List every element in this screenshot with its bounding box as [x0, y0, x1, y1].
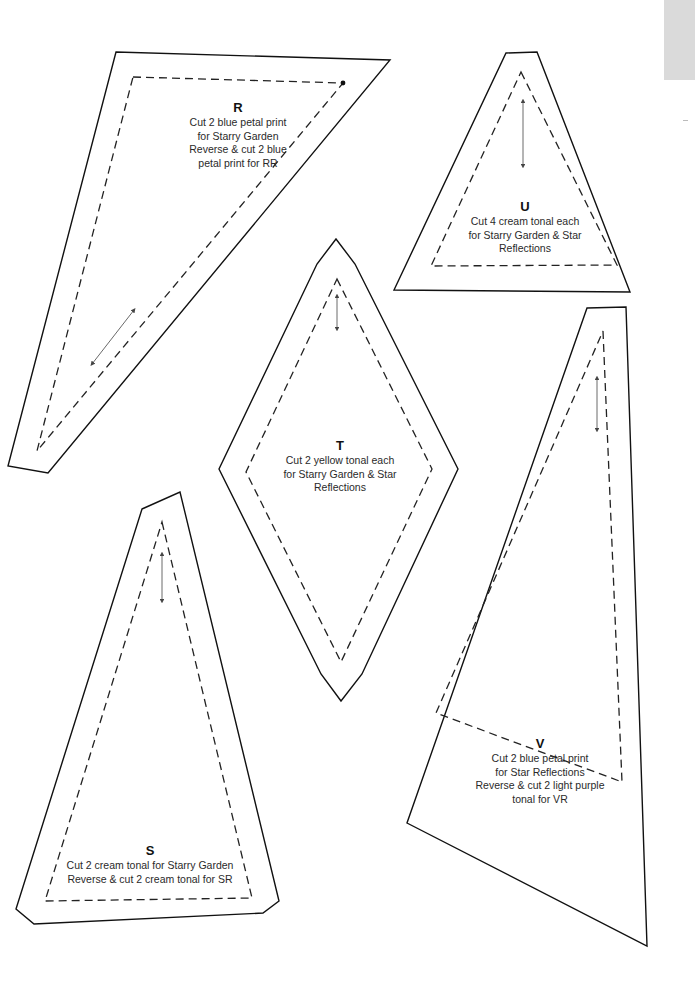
piece-letter: S [50, 843, 250, 859]
piece-instruction-line: for Star Reflections [470, 766, 610, 780]
piece-v-label: V Cut 2 blue petal print for Star Reflec… [470, 736, 610, 806]
piece-instruction-line: Reflections [270, 481, 410, 495]
piece-u-label: U Cut 4 cream tonal each for Starry Gard… [455, 199, 595, 256]
piece-s-label: S Cut 2 cream tonal for Starry Garden Re… [50, 843, 250, 886]
piece-u-template [394, 52, 630, 292]
piece-v-template [407, 307, 647, 946]
piece-r-label: R Cut 2 blue petal print for Starry Gard… [168, 100, 308, 170]
piece-instruction-line: Cut 2 blue petal print [470, 752, 610, 766]
grainline-arrow-icon [92, 310, 134, 364]
piece-instruction-line: Cut 2 cream tonal for Starry Garden [50, 859, 250, 873]
piece-instruction-line: for Starry Garden & Star [455, 229, 595, 243]
piece-instruction-line: Cut 2 blue petal print [168, 116, 308, 130]
piece-instruction-line: Cut 2 yellow tonal each [270, 454, 410, 468]
piece-instruction-line: Reverse & cut 2 light purple [470, 779, 610, 793]
piece-letter: T [270, 438, 410, 454]
piece-instruction-line: Reverse & cut 2 blue [168, 143, 308, 157]
piece-instruction-line: for Starry Garden [168, 130, 308, 144]
piece-letter: V [470, 736, 610, 752]
piece-instruction-line: tonal for VR [470, 793, 610, 807]
piece-instruction-line: Cut 4 cream tonal each [455, 215, 595, 229]
pattern-page: R Cut 2 blue petal print for Starry Gard… [0, 0, 695, 993]
piece-v-cut-line [407, 307, 647, 946]
piece-r-dot-marker [341, 81, 346, 86]
piece-instruction-line: for Starry Garden & Star [270, 468, 410, 482]
piece-instruction-line: Reverse & cut 2 cream tonal for SR [50, 873, 250, 887]
piece-instruction-line: Reflections [455, 242, 595, 256]
piece-letter: R [168, 100, 308, 116]
piece-instruction-line: petal print for RR [168, 157, 308, 171]
piece-letter: U [455, 199, 595, 215]
piece-t-label: T Cut 2 yellow tonal each for Starry Gar… [270, 438, 410, 495]
piece-u-cut-line [394, 52, 630, 292]
piece-v-seam-line [436, 331, 622, 782]
